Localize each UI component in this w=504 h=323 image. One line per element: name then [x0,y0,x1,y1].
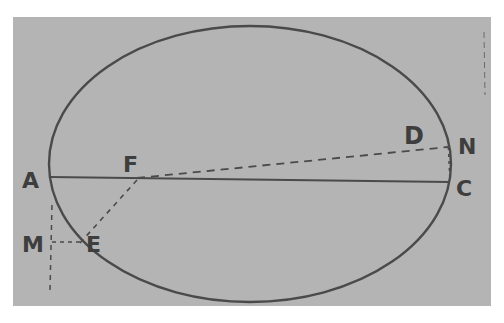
label-c: C [456,176,472,201]
faint-edge-line [484,32,485,95]
dashed-line-f-to-n [137,147,448,178]
major-axis-line [50,177,450,182]
ellipse-diagram: A F D N C M Ε [0,0,504,323]
label-m: M [22,232,44,257]
label-n: N [458,134,476,159]
label-f: F [123,152,138,177]
label-e: Ε [86,232,101,257]
ellipse-outline [49,26,451,302]
label-d: D [404,122,424,150]
dashed-vertical-line-m [50,205,52,290]
label-a: A [22,168,39,193]
